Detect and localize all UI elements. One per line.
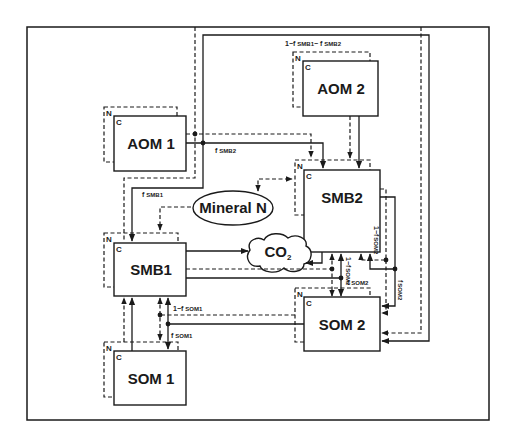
smb1-title: SMB1: [130, 261, 172, 278]
aom1-n-label: N: [106, 109, 112, 118]
som1-c-label: C: [116, 353, 122, 362]
aom2-n-label: N: [295, 54, 301, 63]
junction-dot: [158, 313, 163, 318]
outer-frame: [27, 27, 489, 420]
soil-organic-matter-diagram: N C AOM 1 fSMB2 fSMB1 N C AOM 2 1−fSMB1−…: [0, 0, 512, 441]
aom1-c-label: C: [116, 118, 122, 127]
som2-n-label: N: [297, 290, 303, 299]
aom2-c-label: C: [305, 63, 311, 72]
aom1-title: AOM 1: [127, 135, 175, 152]
label-f-smb1: fSMB1: [142, 191, 164, 198]
label-f-som2-b: fSOM2: [397, 280, 404, 301]
pool-som2: N C SOM 2: [295, 288, 380, 351]
label-f-smb2: fSMB2: [215, 147, 237, 154]
smb2-c-label: C: [306, 172, 312, 181]
smb1-c-label: C: [116, 245, 122, 254]
label-1-fsom1: 1−fSOM1: [173, 305, 203, 312]
smb2-title: SMB2: [321, 189, 363, 206]
junction-dot: [193, 132, 198, 137]
label-1-fsmb1-fsmb2: 1−fSMB1− fSMB2: [285, 40, 342, 47]
aom2-title: AOM 2: [317, 80, 365, 97]
smb2-c-to-som2-right: [382, 269, 395, 306]
label-1-fsom2-b: 1−fSOM2: [373, 226, 380, 255]
co2-sink: CO2: [248, 234, 311, 272]
smb2-n-to-som2-right: [382, 260, 386, 313]
label-f-som1: fSOM1: [171, 332, 193, 339]
som2-c-label: C: [306, 299, 312, 308]
pool-som1: N C SOM 1: [104, 342, 186, 405]
som2-title: SOM 2: [319, 316, 366, 333]
junction-dot: [384, 258, 389, 263]
smb2-n-label: N: [297, 162, 303, 171]
aom1-n-out: [186, 134, 311, 157]
pool-smb1: N C SMB1: [104, 233, 186, 296]
mineral-n-pool: Mineral N: [193, 191, 273, 225]
pool-aom2: N C AOM 2: [293, 52, 378, 116]
junction-dot: [393, 267, 398, 272]
mineraln-smb1-exchange: [160, 207, 191, 230]
som1-title: SOM 1: [128, 370, 175, 387]
pool-smb2: N C SMB2: [295, 160, 380, 252]
junction-dot: [339, 276, 344, 281]
pool-aom1: N C AOM 1: [104, 107, 186, 171]
mineraln-smb2-exchange: [258, 179, 292, 191]
smb1-n-label: N: [106, 235, 112, 244]
mineral-n-label: Mineral N: [199, 199, 267, 216]
junction-dot: [166, 322, 171, 327]
junction-dot: [201, 141, 206, 146]
som1-n-label: N: [106, 344, 112, 353]
junction-dot: [330, 267, 335, 272]
